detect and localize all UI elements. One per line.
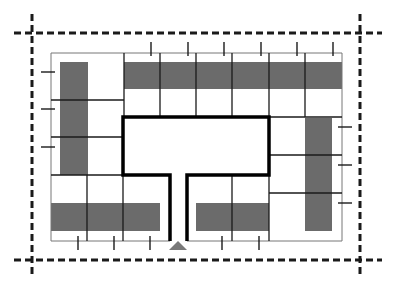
ticks-top xyxy=(151,42,333,56)
bottom-left-band xyxy=(51,203,160,231)
entrance-triangle-icon xyxy=(169,241,187,250)
top-row-band xyxy=(124,62,342,89)
ticks-left xyxy=(41,72,55,147)
site-plan-diagram xyxy=(0,0,394,291)
left-column-band xyxy=(60,62,88,175)
right-column-band xyxy=(305,118,332,231)
ticks-right xyxy=(338,127,352,203)
